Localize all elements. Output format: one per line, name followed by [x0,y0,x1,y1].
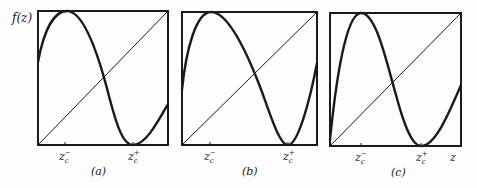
figure: f(z) zc− zc+ (a) zc− zc+ (b) zc− zc+ z (… [0,0,477,188]
panel-a [38,11,168,145]
panel-a-zc-plus-label: zc+ [128,151,140,162]
panel-c-zc-minus-label: zc− [355,152,367,163]
panel-c [330,13,461,146]
panel-b-zc-minus-label: zc− [204,151,216,162]
panel-b-zc-plus-label: zc+ [283,151,295,162]
panel-c-caption: (c) [391,167,406,178]
panel-b-identity-line [182,12,317,145]
panel-b-caption: (b) [242,166,258,177]
panel-c-zc-plus-label: zc+ [416,152,428,163]
x-axis-label: z [450,152,456,163]
panel-b [182,12,317,145]
panel-a-zc-minus-label: zc− [59,151,71,162]
figure-graphics [0,0,477,188]
y-axis-label: f(z) [12,12,32,24]
panel-a-caption: (a) [91,166,106,177]
